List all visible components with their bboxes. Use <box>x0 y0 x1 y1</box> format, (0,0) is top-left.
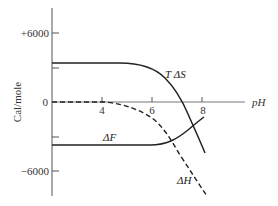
x-axis-label: pH <box>251 96 267 108</box>
label-delta-h: ΔH <box>176 174 192 186</box>
x-tick-label-4: 4 <box>99 104 105 116</box>
label-t-delta-s: T ΔS <box>165 68 186 80</box>
chart: +6000 0 −6000 4 6 8 Cal/mole pH T ΔS ΔF … <box>0 0 278 206</box>
y-tick-label-zero: 0 <box>43 96 49 108</box>
series-delta-f <box>52 117 204 145</box>
label-delta-f: ΔF <box>102 131 116 143</box>
y-tick-label-pos6000: +6000 <box>21 27 50 39</box>
x-tick-label-8: 8 <box>200 104 206 116</box>
y-tick-label-neg6000: −6000 <box>21 165 50 177</box>
y-axis-label: Cal/mole <box>11 82 23 122</box>
x-tick-label-6: 6 <box>149 104 155 116</box>
